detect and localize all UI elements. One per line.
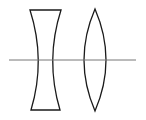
lens-diagram [0,0,146,120]
